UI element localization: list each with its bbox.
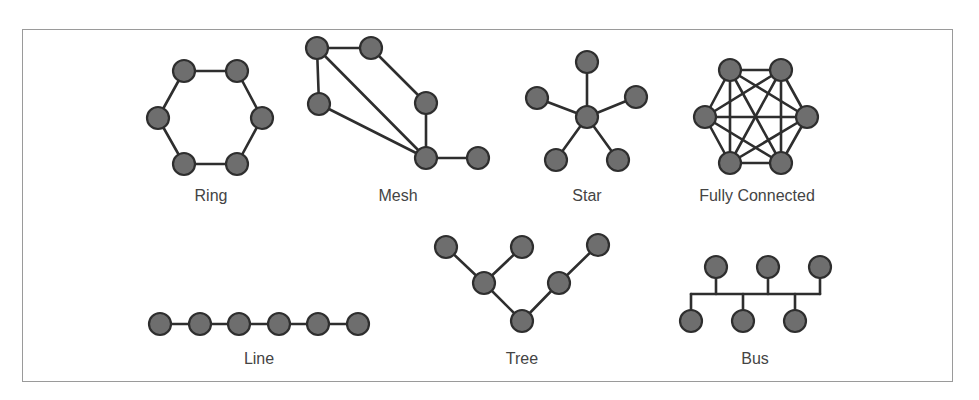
- mesh-node: [467, 147, 489, 169]
- star-node: [576, 51, 598, 73]
- ring-node: [173, 153, 195, 175]
- bus-node: [757, 256, 779, 278]
- bus-label: Bus: [741, 350, 769, 367]
- topology-line: Line: [149, 313, 369, 367]
- fully-connected-node: [796, 106, 818, 128]
- fully-connected-node: [719, 59, 741, 81]
- mesh-node: [360, 37, 382, 59]
- tree-label: Tree: [506, 350, 538, 367]
- ring-label: Ring: [195, 187, 228, 204]
- ring-nodes: [147, 60, 273, 175]
- fully-connected-edges: [705, 70, 807, 163]
- fully-connected-label: Fully Connected: [699, 187, 815, 204]
- tree-node: [473, 272, 495, 294]
- ring-node: [173, 60, 195, 82]
- tree-node: [511, 236, 533, 258]
- ring-node: [226, 60, 248, 82]
- bus-node: [809, 256, 831, 278]
- ring-node: [251, 107, 273, 129]
- star-nodes: [526, 51, 647, 171]
- star-node: [607, 149, 629, 171]
- ring-node: [147, 107, 169, 129]
- line-node: [347, 313, 369, 335]
- mesh-node: [308, 93, 330, 115]
- topology-fully-connected: Fully Connected: [694, 59, 818, 204]
- line-label: Line: [244, 350, 274, 367]
- mesh-edges: [317, 48, 478, 158]
- tree-node: [587, 234, 609, 256]
- fully-connected-node: [694, 106, 716, 128]
- mesh-node: [306, 37, 328, 59]
- line-node: [268, 313, 290, 335]
- fully-connected-node: [770, 152, 792, 174]
- mesh-label: Mesh: [378, 187, 417, 204]
- star-label: Star: [572, 187, 602, 204]
- mesh-edge: [317, 48, 426, 158]
- topology-ring: Ring: [147, 60, 273, 204]
- line-node: [228, 313, 250, 335]
- star-node: [625, 86, 647, 108]
- line-node: [149, 313, 171, 335]
- star-node: [576, 106, 598, 128]
- line-node: [189, 313, 211, 335]
- mesh-node: [415, 92, 437, 114]
- ring-node: [226, 153, 248, 175]
- bus-node: [680, 310, 702, 332]
- star-node: [526, 87, 548, 109]
- network-topologies-diagram: Ring Mesh Star Fully Connected Line Tree…: [0, 0, 979, 400]
- bus-node: [732, 310, 754, 332]
- ring-edges: [158, 71, 262, 164]
- topology-star: Star: [526, 51, 647, 204]
- mesh-edge: [319, 104, 426, 158]
- topology-bus: Bus: [680, 256, 831, 367]
- fully-connected-node: [770, 59, 792, 81]
- topology-tree: Tree: [435, 234, 609, 367]
- bus-node: [784, 310, 806, 332]
- mesh-nodes: [306, 37, 489, 169]
- line-node: [307, 313, 329, 335]
- tree-node: [511, 310, 533, 332]
- topology-mesh: Mesh: [306, 37, 489, 204]
- bus-node: [705, 256, 727, 278]
- mesh-node: [415, 147, 437, 169]
- tree-node: [548, 272, 570, 294]
- fully-connected-node: [719, 152, 741, 174]
- tree-node: [435, 236, 457, 258]
- tree-nodes: [435, 234, 609, 332]
- star-node: [545, 149, 567, 171]
